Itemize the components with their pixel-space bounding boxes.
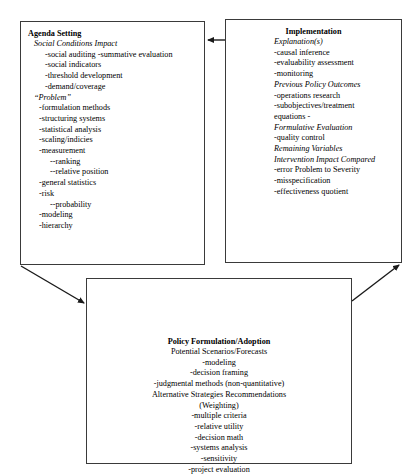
- diagram-line: -formulation methods: [28, 103, 204, 114]
- arrow-policy-to-implementation: [352, 265, 399, 301]
- diagram-line: -risk: [28, 189, 204, 200]
- box-implementation-lines: Explanation(s)-causal inference-evaluabi…: [226, 37, 401, 198]
- diagram-line: -modeling: [87, 358, 351, 369]
- diagram-line: -relative utility: [87, 422, 351, 433]
- diagram-line: -scaling/indicies: [28, 135, 204, 146]
- diagram-line: -decision math: [87, 433, 351, 444]
- diagram-line: -structuring systems: [28, 114, 204, 125]
- diagram-line: -sensitivity: [87, 454, 351, 465]
- diagram-line: -systems analysis: [87, 443, 351, 454]
- box-implementation-content: Implementation Explanation(s)-causal inf…: [226, 20, 401, 198]
- box-policy-formulation-adoption: Policy Formulation/Adoption Potential Sc…: [86, 278, 352, 464]
- box-implementation: Implementation Explanation(s)-causal inf…: [225, 19, 402, 263]
- diagram-line: Intervention Impact Compared: [226, 155, 401, 166]
- diagram-line: -general statistics: [28, 178, 204, 189]
- diagram-line: -decision framing: [87, 368, 351, 379]
- diagram-line: -hierarchy: [28, 221, 204, 232]
- diagram-line: -monitoring: [226, 69, 401, 80]
- box-agenda-setting-lines: Social Conditions Impact-social auditing…: [28, 39, 204, 232]
- diagram-line: “Problem”: [28, 93, 204, 104]
- diagram-line: Remaining Variables: [226, 144, 401, 155]
- diagram-line: -causal inference: [226, 48, 401, 59]
- box-agenda-setting-title: Agenda Setting: [28, 28, 204, 39]
- box-agenda-setting: Agenda Setting Social Conditions Impact-…: [20, 21, 205, 265]
- diagram-line: -misspecification: [226, 176, 401, 187]
- diagram-line: Explanation(s): [226, 37, 401, 48]
- diagram-line: -multiple criteria: [87, 411, 351, 422]
- diagram-line: --ranking: [28, 157, 204, 168]
- diagram-line: Potential Scenarios/Forecasts: [87, 347, 351, 358]
- diagram-line: --probability: [28, 200, 204, 211]
- diagram-line: -effectiveness quotient: [226, 187, 401, 198]
- box-policy-formulation-adoption-lines: Potential Scenarios/Forecasts-modeling-d…: [87, 347, 351, 474]
- diagram-line: -quality control: [226, 133, 401, 144]
- diagram-line: -evaluability assessment: [226, 58, 401, 69]
- diagram-canvas: Agenda Setting Social Conditions Impact-…: [0, 0, 410, 474]
- diagram-line: -measurement: [28, 146, 204, 157]
- diagram-line: -operations research: [226, 91, 401, 102]
- diagram-line: -project evaluation: [87, 465, 351, 474]
- diagram-line: -demand/coverage: [28, 82, 204, 93]
- diagram-line: (Weighting): [87, 401, 351, 412]
- diagram-line: Alternative Strategies Recommendations: [87, 390, 351, 401]
- diagram-line: -error Problem to Severity: [226, 165, 401, 176]
- diagram-line: --relative position: [28, 167, 204, 178]
- diagram-line: -social auditing -summative evaluation: [28, 50, 204, 61]
- diagram-line: -statistical analysis: [28, 125, 204, 136]
- box-policy-formulation-adoption-content: Policy Formulation/Adoption Potential Sc…: [87, 279, 351, 474]
- diagram-line: -threshold development: [28, 71, 204, 82]
- diagram-line: Previous Policy Outcomes: [226, 80, 401, 91]
- diagram-line: -modeling: [28, 210, 204, 221]
- arrow-agenda-to-policy: [21, 266, 84, 303]
- diagram-line: Social Conditions Impact: [28, 39, 204, 50]
- box-agenda-setting-content: Agenda Setting Social Conditions Impact-…: [21, 22, 204, 232]
- box-implementation-title: Implementation: [226, 26, 401, 37]
- diagram-line: -subobjectives/treatment: [226, 101, 401, 112]
- box-policy-formulation-adoption-title: Policy Formulation/Adoption: [87, 336, 351, 347]
- diagram-line: equations -: [226, 112, 401, 123]
- diagram-line: -social indicators: [28, 60, 204, 71]
- diagram-line: -judgmental methods (non-quantitative): [87, 379, 351, 390]
- diagram-line: Formulative Evaluation: [226, 123, 401, 134]
